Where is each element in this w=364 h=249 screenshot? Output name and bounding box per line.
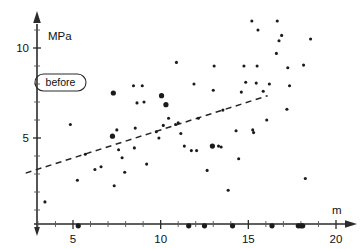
data-point: [134, 127, 137, 130]
data-point: [262, 90, 265, 93]
data-point: [186, 223, 191, 228]
y-axis-bottom-arrowhead: [34, 227, 40, 236]
data-point: [269, 223, 274, 228]
data-point: [265, 118, 268, 121]
data-point: [206, 169, 209, 172]
data-point: [256, 64, 259, 67]
data-point: [142, 100, 145, 103]
x-axis-arrowhead: [345, 220, 357, 228]
data-point: [242, 64, 245, 67]
data-point: [210, 144, 215, 149]
data-point: [162, 124, 165, 127]
y-axis-label: MPa: [48, 30, 72, 42]
data-point: [157, 136, 160, 139]
before-badge: before: [35, 74, 86, 91]
data-point: [309, 37, 312, 40]
data-point: [179, 132, 182, 135]
data-point: [286, 66, 289, 69]
data-points-group: [43, 19, 312, 228]
data-point: [115, 128, 118, 131]
data-point: [288, 84, 291, 87]
data-point: [121, 156, 124, 159]
data-point: [155, 130, 158, 133]
data-point: [76, 179, 79, 182]
data-point: [132, 84, 135, 87]
axes-group: [33, 11, 357, 236]
data-point: [268, 82, 271, 85]
before-badge-label: before: [46, 76, 76, 88]
x-tick-label: 5: [70, 233, 76, 245]
x-tick-label: 20: [330, 233, 343, 245]
data-point: [76, 223, 81, 228]
data-point: [220, 145, 223, 148]
data-point: [285, 108, 288, 111]
data-point: [244, 81, 247, 84]
data-point: [192, 82, 195, 85]
data-point: [100, 165, 103, 168]
data-point: [69, 123, 72, 126]
data-point: [123, 171, 126, 174]
data-point: [195, 149, 198, 152]
data-point: [255, 82, 258, 85]
data-point: [252, 131, 255, 134]
data-point: [227, 189, 230, 192]
data-point: [141, 84, 144, 87]
y-axis-arrowhead: [33, 11, 41, 23]
data-point: [175, 61, 178, 64]
data-point: [277, 39, 280, 42]
data-point: [159, 93, 164, 98]
data-point: [230, 223, 235, 228]
data-point: [43, 200, 46, 203]
x-axis-label: m: [332, 204, 342, 216]
data-point: [235, 129, 238, 132]
data-point: [113, 184, 116, 187]
data-point: [213, 64, 216, 67]
data-point: [174, 123, 177, 126]
y-tick-label: 5: [23, 132, 29, 144]
data-point: [84, 153, 87, 156]
data-point: [250, 19, 253, 22]
data-point: [240, 91, 243, 94]
x-tick-label: 15: [242, 233, 255, 245]
data-point: [117, 148, 120, 151]
data-point: [190, 149, 193, 152]
data-point: [280, 34, 283, 37]
data-point: [133, 146, 136, 149]
data-point: [202, 223, 207, 228]
data-point: [177, 121, 180, 124]
data-point: [183, 145, 186, 148]
data-point: [197, 117, 200, 120]
plot-canvas: 510 5101520 MPa m before: [0, 0, 364, 249]
data-point: [217, 145, 220, 148]
data-point: [93, 168, 96, 171]
x-tick-label: 10: [154, 233, 167, 245]
data-point: [237, 157, 240, 160]
data-point: [304, 177, 307, 180]
data-point: [275, 52, 278, 55]
y-axis-tick-labels: 510: [16, 42, 29, 144]
data-point: [110, 134, 115, 139]
trend-line-dashed: [26, 96, 268, 173]
y-tick-label: 10: [16, 42, 29, 54]
data-point: [212, 89, 215, 92]
data-point: [221, 109, 224, 112]
data-point: [135, 101, 138, 104]
data-point: [111, 90, 116, 95]
x-axis-tick-labels: 5101520: [70, 233, 343, 245]
data-point: [163, 102, 168, 107]
data-point: [167, 117, 170, 120]
data-point: [251, 128, 254, 131]
data-point: [256, 28, 259, 31]
data-point: [300, 223, 305, 228]
data-point: [145, 163, 148, 166]
scatter-chart-figure: 510 5101520 MPa m before: [0, 0, 364, 249]
data-point: [276, 19, 279, 22]
data-point: [302, 64, 305, 67]
